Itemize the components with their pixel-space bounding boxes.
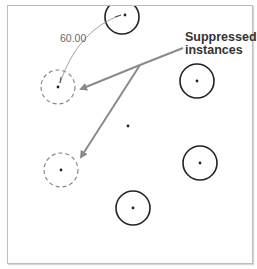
callout-leaders (81, 48, 183, 157)
instance-suppressed-lower[interactable] (44, 153, 78, 187)
instance-solid-top[interactable] (105, 0, 139, 34)
instance-suppressed-upper[interactable] (41, 70, 75, 104)
pattern-center-point (127, 125, 130, 128)
angular-dimension[interactable]: 60.00 (60, 15, 121, 83)
suppressed-instances-callout: Suppressed instances (185, 31, 257, 57)
dimension-label: 60.00 (60, 32, 86, 44)
instance-solid-right-lower[interactable] (183, 146, 217, 180)
instance-solid-right-upper[interactable] (180, 64, 214, 98)
instance-solid-bottom[interactable] (116, 191, 150, 225)
callout-line-2: instances (185, 44, 257, 57)
